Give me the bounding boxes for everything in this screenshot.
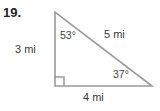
triangle-diagram (0, 0, 160, 111)
figure-root: 19. 3 mi 4 mi 5 mi 53° 37° (0, 0, 160, 111)
angle-label-bottom-right: 37° (113, 69, 129, 80)
side-label-bottom-leg: 4 mi (83, 92, 104, 103)
triangle-outline (55, 12, 152, 86)
side-label-left-leg: 3 mi (15, 44, 36, 55)
angle-label-top: 53° (60, 30, 76, 41)
right-angle-marker-icon (55, 77, 64, 86)
side-label-hypotenuse: 5 mi (104, 29, 125, 40)
